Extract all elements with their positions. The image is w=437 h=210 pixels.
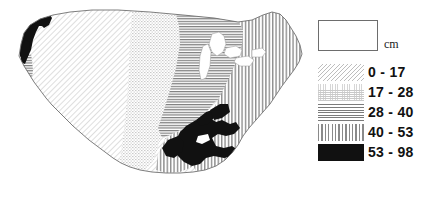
legend-row-4[interactable]: 53 - 98 (318, 144, 436, 161)
legend-swatch-vertical-lines-icon (318, 124, 364, 141)
legend-unit-row: cm (318, 20, 436, 56)
legend-swatch-diagonal-hatch-icon (318, 64, 364, 81)
legend-unit-label: cm (384, 38, 399, 50)
precipitation-map-figure: cm 0 - 17 17 - 28 28 - 40 40 - 53 53 - 9… (0, 0, 437, 210)
legend-row-0[interactable]: 0 - 17 (318, 64, 436, 81)
blank-white-box-swatch (318, 20, 378, 51)
legend-label-0: 0 - 17 (368, 63, 406, 81)
legend-row-3[interactable]: 40 - 53 (318, 124, 436, 141)
legend-row-2[interactable]: 28 - 40 (318, 104, 436, 121)
legend-label-4: 53 - 98 (368, 143, 414, 161)
us-map (0, 0, 310, 210)
legend-row-1[interactable]: 17 - 28 (318, 84, 436, 101)
legend-label-1: 17 - 28 (368, 83, 414, 101)
legend-label-2: 28 - 40 (368, 103, 414, 121)
legend-label-3: 40 - 53 (368, 123, 414, 141)
legend-swatch-horizontal-lines-icon (318, 104, 364, 121)
map-legend: cm 0 - 17 17 - 28 28 - 40 40 - 53 53 - 9… (316, 18, 437, 180)
legend-swatch-light-stipple-icon (318, 84, 364, 101)
legend-swatch-solid-black-icon (318, 144, 364, 161)
